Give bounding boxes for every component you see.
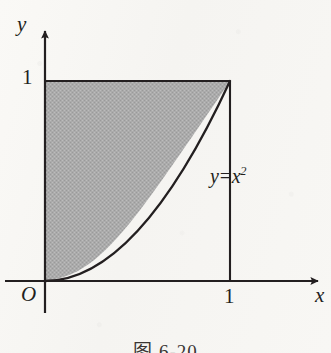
figure-caption: 图 6-20 <box>0 336 331 353</box>
curve-equation-exponent: 2 <box>240 164 246 178</box>
origin-label: O <box>21 284 36 305</box>
plot-canvas <box>0 0 331 353</box>
y-axis-tick-label-1: 1 <box>22 67 33 88</box>
curve-equation-label: y=x2 <box>210 165 246 186</box>
shaded-region <box>45 81 230 281</box>
curve-equation-base: y=x <box>210 165 240 187</box>
x-axis-label: x <box>315 285 324 306</box>
x-axis-tick-label-1: 1 <box>224 286 235 307</box>
figure-container: y x O 1 1 y=x2 图 6-20 <box>0 0 331 353</box>
y-axis-label: y <box>17 14 26 35</box>
